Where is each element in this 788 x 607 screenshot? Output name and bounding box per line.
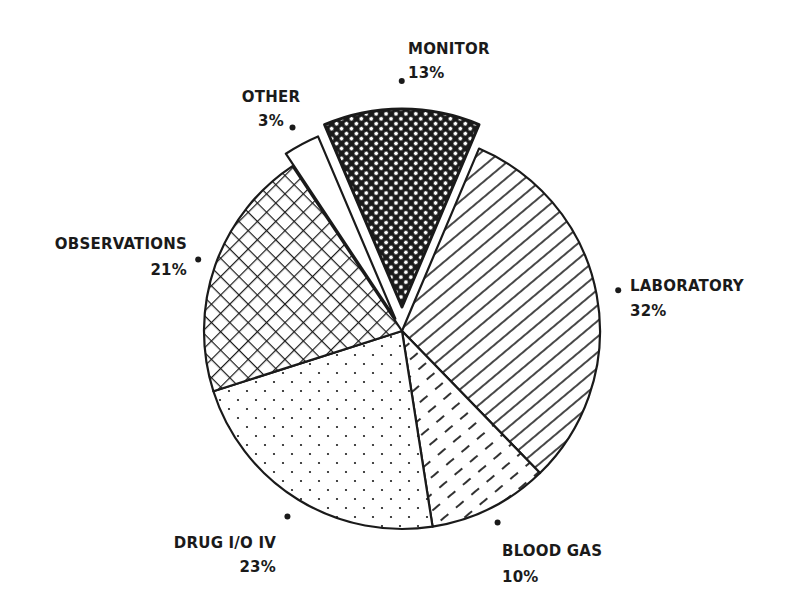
label-pct-drug-io-iv: 23% (239, 558, 276, 576)
label-dot-laboratory (615, 287, 621, 293)
label-pct-laboratory: 32% (630, 302, 667, 320)
slice-label-blood-gas: BLOOD GAS 10% (502, 542, 602, 586)
label-dot-observations (195, 256, 201, 262)
label-dot-drug-i-o-iv (284, 513, 290, 519)
label-pct-other: 3% (258, 112, 284, 130)
label-name-observations: OBSERVATIONS (55, 235, 187, 253)
label-name-other: OTHER (242, 88, 301, 106)
label-dot-blood-gas (495, 519, 501, 525)
pie-chart: MONITOR 13% LABORATORY 32% BLOOD GAS 10%… (0, 0, 788, 607)
label-name-monitor: MONITOR (408, 40, 490, 58)
slice-label-drug-io-iv: DRUG I/O IV 23% (174, 534, 276, 576)
label-name-blood-gas: BLOOD GAS (502, 542, 602, 560)
label-name-drug-io-iv: DRUG I/O IV (174, 534, 276, 552)
label-name-laboratory: LABORATORY (630, 277, 745, 295)
slice-label-laboratory: LABORATORY 32% (630, 277, 745, 320)
slices-layer (204, 109, 600, 529)
label-pct-blood-gas: 10% (502, 568, 539, 586)
label-pct-monitor: 13% (408, 64, 445, 82)
slice-label-observations: OBSERVATIONS 21% (55, 235, 187, 279)
label-dot-other (290, 125, 296, 131)
label-pct-observations: 21% (150, 261, 187, 279)
label-dot-monitor (399, 78, 405, 84)
slice-label-monitor: MONITOR 13% (408, 40, 490, 82)
slice-label-other: OTHER 3% (242, 88, 301, 130)
